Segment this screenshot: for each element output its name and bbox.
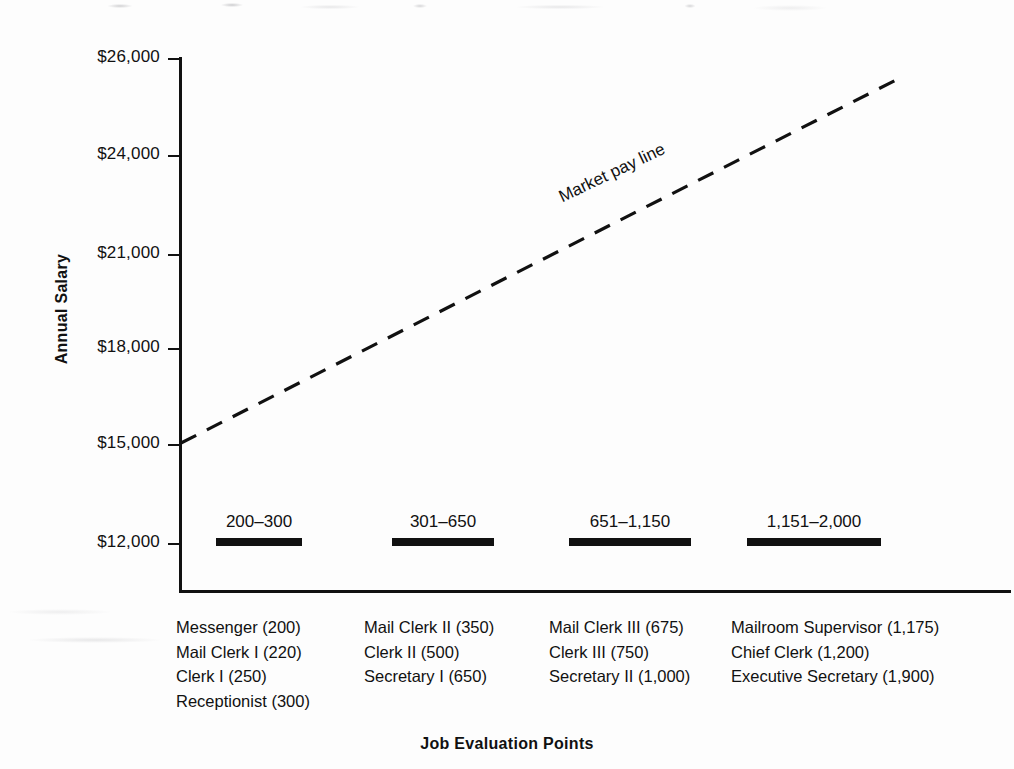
- job-points: (350): [456, 618, 495, 636]
- job-title: Secretary I: [364, 667, 444, 685]
- job-title: Clerk III: [549, 643, 606, 661]
- job-list-item: Receptionist (300): [176, 689, 310, 714]
- y-tick-mark-18000: [168, 348, 179, 350]
- y-tick-label-12000: $12,000: [97, 532, 160, 552]
- job-points: (1,000): [638, 667, 690, 685]
- job-list-item: Clerk II (500): [364, 640, 494, 665]
- job-list-item: Mail Clerk III (675): [549, 615, 690, 640]
- job-list-item: Chief Clerk (1,200): [731, 640, 939, 665]
- job-points: (500): [421, 643, 460, 661]
- y-tick-mark-15000: [168, 444, 179, 446]
- chart-page: $26,000 $24,000 $21,000 $18,000 $15,000 …: [0, 0, 1014, 769]
- job-column-3: Mail Clerk III (675) Clerk III (750) Sec…: [549, 615, 690, 689]
- x-axis-line: [179, 590, 1011, 593]
- job-title: Receptionist: [176, 692, 267, 710]
- job-column-1: Messenger (200) Mail Clerk I (220) Clerk…: [176, 615, 310, 713]
- y-tick-label-15000: $15,000: [97, 433, 160, 453]
- market-pay-line-label: Market pay line: [556, 139, 669, 207]
- job-list-item: Secretary II (1,000): [549, 664, 690, 689]
- job-title: Messenger: [176, 618, 258, 636]
- y-tick-label-24000: $24,000: [97, 144, 160, 164]
- y-tick-label-26000: $26,000: [97, 47, 160, 67]
- y-axis-line: [179, 57, 182, 593]
- job-list-item: Clerk III (750): [549, 640, 690, 665]
- job-title: Secretary II: [549, 667, 633, 685]
- job-list-item: Executive Secretary (1,900): [731, 664, 939, 689]
- grade-bar-4: [747, 538, 881, 546]
- scan-artifact-top: [0, 0, 1014, 26]
- job-points: (650): [448, 667, 487, 685]
- grade-range-label-1: 200–300: [196, 512, 322, 532]
- y-tick-mark-12000: [168, 543, 179, 545]
- job-list-item: Secretary I (650): [364, 664, 494, 689]
- job-column-4: Mailroom Supervisor (1,175) Chief Clerk …: [731, 615, 939, 689]
- job-points: (1,175): [887, 618, 939, 636]
- job-points: (200): [262, 618, 301, 636]
- x-axis-title: Job Evaluation Points: [0, 735, 1014, 753]
- grade-bar-2: [392, 538, 494, 546]
- y-axis-title: Annual Salary: [53, 229, 71, 389]
- job-points: (220): [263, 643, 302, 661]
- job-list-item: Mail Clerk II (350): [364, 615, 494, 640]
- grade-range-label-4: 1,151–2,000: [751, 512, 877, 532]
- grade-range-label-3: 651–1,150: [567, 512, 693, 532]
- job-title: Chief Clerk: [731, 643, 813, 661]
- job-points: (750): [610, 643, 649, 661]
- grade-bar-1: [216, 538, 302, 546]
- job-title: Mailroom Supervisor: [731, 618, 882, 636]
- job-points: (250): [228, 667, 267, 685]
- grade-bar-3: [569, 538, 691, 546]
- job-points: (675): [645, 618, 684, 636]
- job-title: Clerk I: [176, 667, 224, 685]
- scan-artifact-left: [0, 596, 200, 656]
- y-tick-mark-21000: [168, 254, 179, 256]
- job-title: Executive Secretary: [731, 667, 878, 685]
- job-points: (1,900): [882, 667, 934, 685]
- grade-range-label-2: 301–650: [380, 512, 506, 532]
- job-title: Mail Clerk III: [549, 618, 641, 636]
- job-list-item: Mailroom Supervisor (1,175): [731, 615, 939, 640]
- y-tick-label-21000: $21,000: [97, 243, 160, 263]
- job-list-item: Clerk I (250): [176, 664, 310, 689]
- job-column-2: Mail Clerk II (350) Clerk II (500) Secre…: [364, 615, 494, 689]
- y-tick-label-18000: $18,000: [97, 337, 160, 357]
- y-tick-mark-26000: [168, 58, 179, 60]
- job-list-item: Messenger (200): [176, 615, 310, 640]
- job-title: Mail Clerk II: [364, 618, 451, 636]
- job-points: (1,200): [817, 643, 869, 661]
- job-title: Clerk II: [364, 643, 416, 661]
- job-title: Mail Clerk I: [176, 643, 259, 661]
- y-tick-mark-24000: [168, 155, 179, 157]
- job-points: (300): [271, 692, 310, 710]
- job-list-item: Mail Clerk I (220): [176, 640, 310, 665]
